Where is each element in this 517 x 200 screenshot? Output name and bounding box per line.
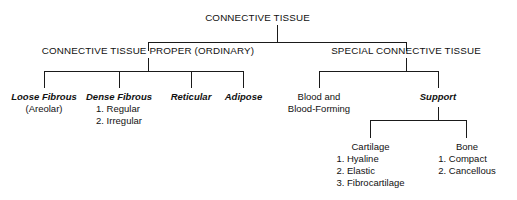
node-label: Reticular	[159, 91, 223, 103]
connector-special-stem	[406, 58, 407, 71]
connector-special-drop-support	[438, 71, 439, 88]
node-blood-and-blood-forming: Blood and Blood-Forming	[277, 91, 361, 115]
node-label: Adipose	[215, 91, 272, 103]
connector-special-bar	[319, 71, 439, 72]
node-label: CONNECTIVE TISSUE	[170, 12, 345, 24]
node-subitem: 1. Hyaline	[336, 153, 404, 165]
connective-tissue-classification-diagram: CONNECTIVE TISSUE CONNECTIVE TISSUE PROP…	[0, 0, 517, 200]
connector-support-drop-bone	[466, 120, 467, 138]
connector-proper-stem	[148, 58, 149, 71]
node-dense-fibrous: Dense Fibrous 1. Regular 2. Irregular	[79, 91, 159, 127]
node-bone: Bone 1. Compact 2. Cancellous	[431, 141, 503, 177]
node-reticular: Reticular	[159, 91, 223, 103]
node-label: Blood and	[277, 91, 361, 103]
node-label: Cartilage	[333, 141, 408, 153]
node-subitem: (Areolar)	[4, 103, 84, 115]
node-subitem: 3. Fibrocartilage	[336, 177, 404, 189]
node-subitem-list: 1. Hyaline 2. Elastic 3. Fibrocartilage	[336, 153, 404, 189]
node-loose-fibrous: Loose Fibrous (Areolar)	[4, 91, 84, 115]
node-connective-tissue-proper: CONNECTIVE TISSUE PROPER (ORDINARY)	[28, 45, 268, 57]
connector-proper-drop-dense	[119, 71, 120, 88]
node-label: Support	[408, 91, 468, 103]
node-subitem: 2. Elastic	[336, 165, 404, 177]
node-cartilage: Cartilage 1. Hyaline 2. Elastic 3. Fibro…	[333, 141, 408, 189]
node-subitem: 2. Cancellous	[438, 165, 496, 177]
connector-proper-drop-reticular	[191, 71, 192, 88]
node-label: SPECIAL CONNECTIVE TISSUE	[318, 45, 494, 57]
node-label-line2: Blood-Forming	[277, 103, 361, 115]
connector-root-stem	[277, 25, 278, 42]
connector-level1-bar	[148, 42, 407, 43]
connector-proper-drop-loose	[44, 71, 45, 88]
node-adipose: Adipose	[215, 91, 272, 103]
node-subitem: 1. Regular	[96, 103, 142, 115]
connector-proper-bar	[44, 71, 244, 72]
node-support: Support	[408, 91, 468, 103]
node-subitem-list: 1. Regular 2. Irregular	[96, 103, 142, 127]
node-label: Dense Fibrous	[79, 91, 159, 103]
node-special-connective-tissue: SPECIAL CONNECTIVE TISSUE	[318, 45, 494, 57]
connector-special-drop-blood	[319, 71, 320, 88]
connector-support-drop-cartilage	[370, 120, 371, 138]
node-label: Bone	[431, 141, 503, 153]
connector-support-stem	[438, 107, 439, 120]
node-root-connective-tissue: CONNECTIVE TISSUE	[170, 12, 345, 24]
connector-support-bar	[370, 120, 467, 121]
node-label: CONNECTIVE TISSUE PROPER (ORDINARY)	[28, 45, 268, 57]
connector-proper-drop-adipose	[243, 71, 244, 88]
node-subitem: 2. Irregular	[96, 115, 142, 127]
node-subitem-list: 1. Compact 2. Cancellous	[438, 153, 496, 177]
node-subitem: 1. Compact	[438, 153, 496, 165]
node-label: Loose Fibrous	[4, 91, 84, 103]
